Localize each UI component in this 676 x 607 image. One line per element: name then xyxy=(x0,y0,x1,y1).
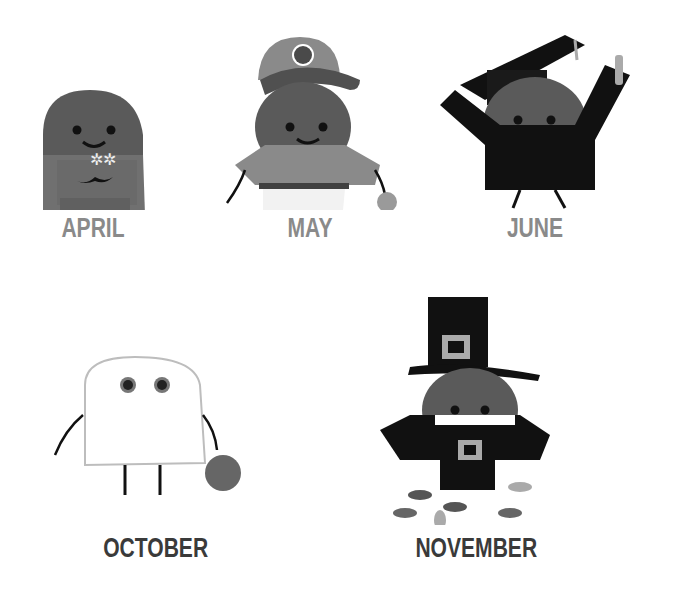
month-label-october: OCTOBER xyxy=(103,533,197,564)
november-character xyxy=(380,295,560,525)
month-label-june: JUNE xyxy=(492,213,578,244)
may-character xyxy=(215,35,410,210)
svg-text:✲✲: ✲✲ xyxy=(90,151,116,168)
month-label-april: APRIL xyxy=(50,213,136,244)
june-character xyxy=(425,30,645,210)
month-label-november: NOVEMBER xyxy=(415,533,524,564)
october-character xyxy=(45,355,255,505)
month-label-may: MAY xyxy=(267,213,353,244)
april-character: ✲✲ xyxy=(35,85,155,210)
